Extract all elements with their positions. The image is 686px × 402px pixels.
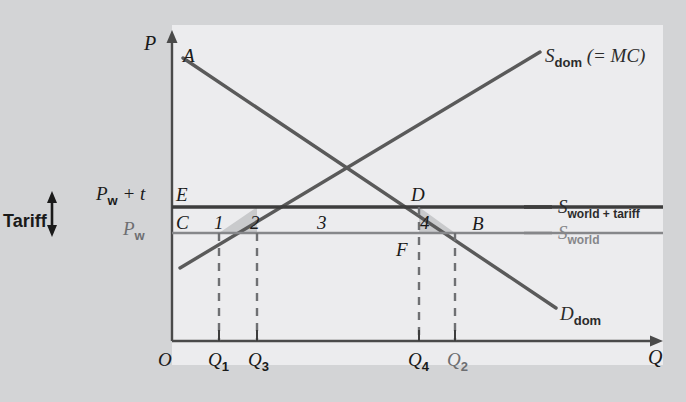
q1-main: Q [208, 349, 222, 370]
s-world-tariff-sub: world + tariff [567, 207, 641, 221]
pw-sub: w [134, 228, 146, 243]
q3-sub: 3 [262, 359, 269, 374]
point-label-c: C [176, 212, 189, 233]
d-dom-main: D [559, 303, 574, 324]
x-axis-label: Q [648, 346, 663, 368]
q4-sub: 4 [422, 359, 430, 374]
q3-main: Q [248, 349, 262, 370]
region-label-4: 4 [420, 212, 430, 233]
point-label-b: B [472, 213, 484, 234]
d-dom-sub: dom [574, 313, 601, 328]
diagram-canvas: P Q O Tariff Pw + t Pw Sdom (= MC) Ddom … [0, 0, 686, 402]
q4-main: Q [408, 349, 422, 370]
s-dom-main: S [545, 45, 555, 66]
s-world-main: S [558, 222, 568, 243]
region-label-2: 2 [250, 212, 260, 233]
q2-sub: 2 [461, 359, 468, 374]
region-label-1: 1 [214, 212, 224, 233]
point-label-e: E [175, 184, 188, 205]
q2-main: Q [447, 349, 461, 370]
pw-plus-t-rest: + t [118, 183, 146, 204]
origin-label: O [158, 349, 172, 370]
pw-main: P [122, 218, 135, 239]
region-label-3: 3 [316, 212, 327, 233]
tariff-label: Tariff [3, 211, 48, 231]
y-axis-label: P [143, 32, 156, 54]
s-world-sub: world [567, 233, 600, 247]
s-world-tariff-main: S [558, 196, 568, 217]
q1-sub: 1 [222, 359, 229, 374]
point-label-d: D [410, 184, 425, 205]
point-label-f: F [395, 239, 408, 260]
s-dom-sub: dom [555, 55, 582, 70]
pw-plus-t-main: P [95, 183, 108, 204]
s-dom-rest: (= MC) [582, 45, 645, 67]
point-label-a: A [181, 45, 195, 66]
